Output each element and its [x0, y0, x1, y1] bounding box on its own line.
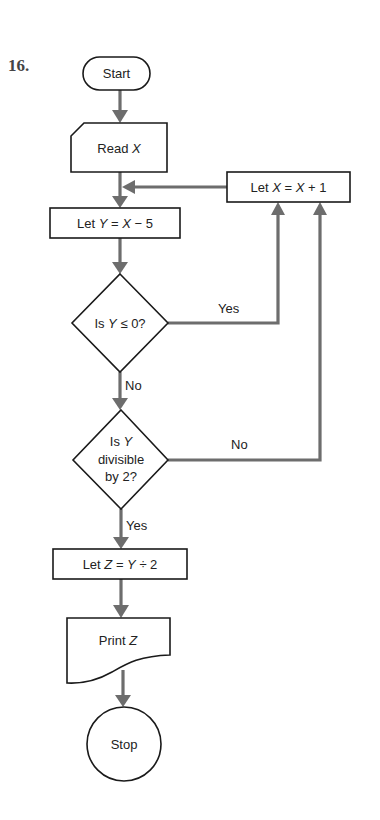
arrowhead-icon — [112, 196, 128, 208]
node-let-x: Let X = X + 1 — [227, 172, 350, 202]
decision-2-line2: divisible — [98, 452, 144, 467]
edge-label-d2-yes: Yes — [126, 518, 148, 533]
arrowhead-icon — [112, 262, 128, 274]
start-label: Start — [103, 66, 131, 81]
arrowhead-icon — [271, 202, 285, 215]
decision-1-label: Is Y ≤ 0? — [94, 316, 145, 331]
let-y-label: Let Y = X − 5 — [77, 216, 153, 231]
read-x-label: Read X — [97, 141, 142, 156]
node-print-z: Print Z — [67, 618, 170, 683]
print-z-label: Print Z — [99, 633, 138, 648]
arrowhead-icon — [112, 398, 128, 410]
edge-label-d2-no: No — [231, 437, 248, 452]
let-z-label: Let Z = Y ÷ 2 — [83, 557, 158, 572]
decision-2-line3: by 2? — [105, 469, 137, 484]
arrowhead-icon — [313, 202, 327, 215]
node-decision-1: Is Y ≤ 0? — [72, 274, 168, 372]
output-document-shape — [67, 618, 170, 683]
node-stop: Stop — [87, 707, 161, 781]
edge-label-d1-yes: Yes — [218, 301, 240, 316]
stop-label: Stop — [111, 737, 138, 752]
edge-label-d1-no: No — [125, 378, 142, 393]
arrowhead-icon — [113, 537, 129, 549]
node-read-x: Read X — [71, 123, 167, 172]
node-start: Start — [83, 57, 150, 90]
edge-d2-no — [168, 214, 320, 460]
decision-2-line1: Is Y — [110, 434, 134, 449]
arrowhead-icon — [115, 695, 131, 707]
let-x-label: Let X = X + 1 — [251, 180, 327, 195]
arrowhead-icon — [112, 110, 128, 123]
node-decision-2: Is Y divisible by 2? — [73, 410, 168, 509]
arrowhead-icon — [122, 180, 135, 194]
flowchart: Yes No No Yes Start Read X Let Y = X − 5… — [0, 0, 380, 820]
arrowhead-icon — [113, 605, 129, 618]
node-let-z: Let Z = Y ÷ 2 — [53, 549, 187, 579]
node-let-y: Let Y = X − 5 — [50, 208, 180, 238]
